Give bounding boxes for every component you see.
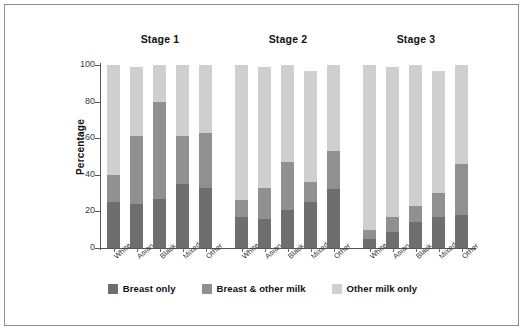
stacked-bar: [199, 65, 212, 248]
segment-breast-only: [153, 199, 166, 248]
segment-other-milk-only: [199, 65, 212, 133]
segment-breast-and-other-milk: [235, 200, 248, 216]
segment-other-milk-only: [107, 65, 120, 175]
segment-breast-and-other-milk: [176, 136, 189, 184]
segment-other-milk-only: [455, 65, 468, 164]
segment-breast-and-other-milk: [409, 206, 422, 222]
segment-breast-only: [258, 219, 271, 248]
segment-breast-and-other-milk: [258, 188, 271, 219]
legend-label: Breast & other milk: [217, 283, 306, 294]
stacked-bar: [281, 65, 294, 248]
segment-breast-only: [455, 215, 468, 248]
stacked-bar: [363, 65, 376, 248]
stacked-bar: [153, 65, 166, 248]
segment-breast-and-other-milk: [153, 102, 166, 199]
segment-other-milk-only: [386, 67, 399, 217]
group-title: Stage 1: [101, 33, 219, 45]
segment-other-milk-only: [363, 65, 376, 230]
bar-group-stage-2: Stage 2WhiteAsianBlackMixedOther: [229, 65, 347, 248]
chart-legend: Breast onlyBreast & other milkOther milk…: [5, 283, 519, 294]
segment-breast-and-other-milk: [327, 151, 340, 189]
stacked-bar: [432, 71, 445, 249]
legend-item: Breast only: [108, 283, 176, 294]
segment-other-milk-only: [432, 71, 445, 194]
segment-other-milk-only: [409, 65, 422, 206]
segment-breast-only: [176, 184, 189, 248]
y-tick-label: 80: [61, 96, 95, 106]
segment-breast-only: [432, 217, 445, 248]
group-title: Stage 3: [357, 33, 475, 45]
stacked-bar: [304, 71, 317, 249]
segment-breast-only: [304, 202, 317, 248]
segment-other-milk-only: [258, 67, 271, 188]
segment-breast-only: [363, 239, 376, 248]
legend-swatch: [332, 284, 342, 294]
segment-breast-and-other-milk: [130, 136, 143, 204]
y-axis-title: Percentage: [75, 119, 86, 175]
stacked-bar: [107, 65, 120, 248]
stacked-bar: [327, 65, 340, 248]
stacked-bar: [130, 67, 143, 248]
y-tick-label: 0: [61, 242, 95, 252]
segment-breast-and-other-milk: [363, 230, 376, 239]
chart-frame: 100806040200 Percentage Stage 1WhiteAsia…: [4, 4, 519, 326]
segment-breast-only: [281, 210, 294, 248]
segment-breast-only: [107, 202, 120, 248]
segment-other-milk-only: [153, 65, 166, 102]
segment-breast-and-other-milk: [455, 164, 468, 215]
legend-label: Breast only: [123, 283, 176, 294]
y-tick-label: 100: [61, 59, 95, 69]
bar-group-stage-1: Stage 1WhiteAsianBlackMixedOther: [101, 65, 219, 248]
stacked-bar: [176, 65, 189, 248]
segment-breast-and-other-milk: [199, 133, 212, 188]
legend-swatch: [202, 284, 212, 294]
segment-breast-only: [235, 217, 248, 248]
segment-breast-and-other-milk: [281, 162, 294, 210]
segment-breast-and-other-milk: [107, 175, 120, 202]
stacked-bar: [258, 67, 271, 248]
segment-breast-and-other-milk: [386, 217, 399, 232]
segment-breast-only: [130, 204, 143, 248]
legend-item: Breast & other milk: [202, 283, 306, 294]
y-tick-label: 20: [61, 205, 95, 215]
segment-other-milk-only: [327, 65, 340, 151]
legend-label: Other milk only: [347, 283, 418, 294]
segment-breast-only: [386, 232, 399, 248]
segment-breast-only: [327, 189, 340, 248]
stacked-bar: [409, 65, 422, 248]
plot-area: Percentage Stage 1WhiteAsianBlackMixedOt…: [101, 65, 475, 248]
stacked-bar: [455, 65, 468, 248]
segment-other-milk-only: [130, 67, 143, 137]
segment-other-milk-only: [235, 65, 248, 200]
segment-breast-only: [409, 222, 422, 248]
group-title: Stage 2: [229, 33, 347, 45]
stacked-bar: [235, 65, 248, 248]
stacked-bar: [386, 67, 399, 248]
segment-other-milk-only: [304, 71, 317, 183]
legend-item: Other milk only: [332, 283, 418, 294]
segment-breast-and-other-milk: [304, 182, 317, 202]
segment-other-milk-only: [176, 65, 189, 136]
segment-other-milk-only: [281, 65, 294, 162]
bar-group-stage-3: Stage 3WhiteAsianBlackMixedOther: [357, 65, 475, 248]
legend-swatch: [108, 284, 118, 294]
segment-breast-and-other-milk: [432, 193, 445, 217]
segment-breast-only: [199, 188, 212, 248]
